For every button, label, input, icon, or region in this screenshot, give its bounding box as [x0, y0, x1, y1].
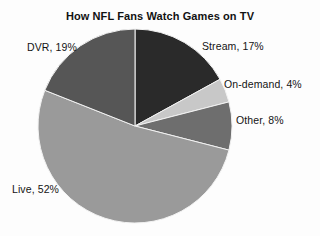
slice-label-stream: Stream, 17% — [202, 40, 264, 52]
pie-slice-group — [38, 29, 232, 223]
slice-label-other: Other, 8% — [236, 114, 284, 126]
slice-label-ondemand: On-demand, 4% — [224, 78, 302, 90]
slice-label-live: Live, 52% — [12, 183, 59, 195]
slice-label-dvr: DVR, 19% — [27, 41, 77, 53]
pie-chart-figure: How NFL Fans Watch Games on TV Stream, 1… — [0, 0, 320, 236]
